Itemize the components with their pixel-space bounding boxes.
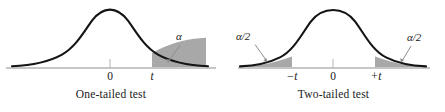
alpha-right-label: α/2 — [407, 31, 421, 43]
two-tailed-panel: α/2 α/2 −t 0 +t Two-tailed test — [222, 0, 445, 112]
normal-curve — [240, 10, 426, 66]
alpha-label: α — [176, 30, 182, 42]
one-tailed-panel: α 0 t One-tailed test — [0, 0, 222, 112]
tick-label-zero: 0 — [103, 70, 117, 82]
tick-label-t: t — [146, 70, 158, 82]
one-tailed-caption: One-tailed test — [0, 88, 222, 100]
tick-label-zero: 0 — [326, 70, 340, 82]
tick-label-minus-t: −t — [280, 70, 304, 82]
hypothesis-test-figure: α 0 t One-tailed test α/2 α/2 — [0, 0, 445, 112]
alpha-left-label: α/2 — [236, 30, 250, 42]
tick-label-plus-t: +t — [364, 70, 388, 82]
two-tailed-caption: Two-tailed test — [222, 88, 445, 100]
alpha-right-leader-line — [402, 46, 411, 61]
alpha-left-leader-line — [255, 45, 267, 61]
